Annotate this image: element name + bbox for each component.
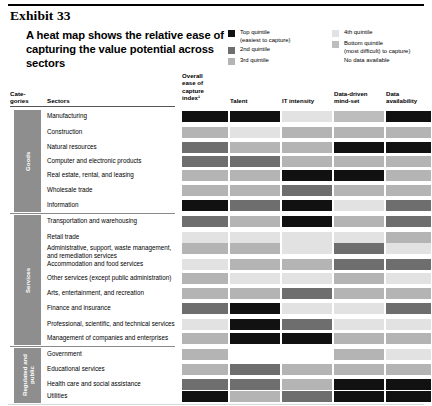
legend-swatch bbox=[228, 30, 235, 37]
heatmap-cell bbox=[282, 111, 332, 122]
sector-label: Computer and electronic products bbox=[47, 157, 179, 165]
column-header-line: Data bbox=[386, 90, 399, 97]
group-bar-label: Regulated and public bbox=[14, 348, 41, 403]
heatmap-cell bbox=[230, 319, 280, 330]
legend-swatch bbox=[332, 30, 339, 37]
heatmap-cell bbox=[282, 288, 332, 299]
heatmap-cell bbox=[282, 200, 332, 211]
heatmap-cell bbox=[182, 259, 228, 270]
heatmap-cell bbox=[182, 156, 228, 167]
heatmap-cell bbox=[282, 349, 332, 360]
heatmap-cell bbox=[182, 185, 228, 196]
heatmap-cell bbox=[386, 127, 431, 138]
heatmap-cell bbox=[282, 232, 332, 243]
heatmap-cell bbox=[182, 379, 228, 390]
heatmap-cell bbox=[282, 142, 332, 153]
heatmap-cell bbox=[282, 364, 332, 375]
heatmap-cell bbox=[334, 349, 384, 360]
sector-label: Real estate, rental, and leasing bbox=[47, 171, 179, 179]
heatmap-cell bbox=[386, 170, 431, 181]
heatmap-cell bbox=[282, 303, 332, 314]
column-header-line: Data-driven bbox=[334, 90, 368, 97]
sector-label: Retail trade bbox=[47, 233, 179, 241]
heatmap-cell bbox=[282, 216, 332, 227]
heatmap-cell bbox=[230, 243, 280, 254]
sector-label: Information bbox=[47, 201, 179, 209]
heatmap-cell bbox=[182, 216, 228, 227]
sector-label: Transportation and warehousing bbox=[47, 217, 179, 225]
heatmap-cell bbox=[230, 349, 280, 360]
heatmap-cell bbox=[386, 232, 431, 243]
sector-label: Wholesale trade bbox=[47, 186, 179, 194]
heatmap-cell bbox=[230, 273, 280, 284]
categories-header-line1: Cate- bbox=[10, 90, 25, 97]
group-bar-label: Goods bbox=[14, 110, 41, 212]
heatmap-cell bbox=[230, 127, 280, 138]
heatmap-cell bbox=[334, 259, 384, 270]
heatmap-cell bbox=[386, 200, 431, 211]
heatmap-cell bbox=[334, 127, 384, 138]
heatmap-cell bbox=[282, 156, 332, 167]
sector-label: Government bbox=[47, 350, 179, 358]
sector-label: Construction bbox=[47, 128, 179, 136]
legend-item: 2nd quintile bbox=[228, 46, 328, 55]
heatmap-cell bbox=[282, 243, 332, 254]
sector-label: Natural resources bbox=[47, 143, 179, 151]
heatmap-cell bbox=[334, 185, 384, 196]
heatmap-cell bbox=[334, 379, 384, 390]
legend-label: 3rd quintile bbox=[240, 57, 328, 65]
column-header-talent: Talent bbox=[230, 97, 286, 104]
heatmap-cell bbox=[282, 185, 332, 196]
heatmap-cell bbox=[230, 216, 280, 227]
heatmap-cell bbox=[334, 364, 384, 375]
column-header-line: Talent bbox=[230, 97, 248, 104]
heatmap-cell bbox=[182, 333, 228, 344]
column-header-data_availability: Dataavailability bbox=[386, 90, 432, 105]
group-bar-label: Services bbox=[14, 215, 41, 345]
heatmap-cell bbox=[282, 319, 332, 330]
legend-swatch bbox=[228, 47, 235, 54]
sector-label: Administrative, support, waste managemen… bbox=[47, 244, 179, 259]
heatmap-cell bbox=[182, 288, 228, 299]
heatmap-cell bbox=[386, 319, 431, 330]
group-bar-goods: Goods bbox=[14, 110, 41, 212]
legend-sublabel: (easiest to capture) bbox=[240, 37, 328, 45]
heatmap-cell bbox=[386, 364, 431, 375]
heatmap-cell bbox=[386, 185, 431, 196]
heatmap-cell bbox=[182, 319, 228, 330]
heatmap-cell bbox=[182, 170, 228, 181]
heatmap-cell bbox=[386, 303, 431, 314]
heatmap-cell bbox=[282, 259, 332, 270]
page-title: A heat map shows the relative ease of ca… bbox=[26, 28, 226, 71]
column-header-line: mind-set bbox=[334, 97, 359, 104]
column-header-line: availability bbox=[386, 97, 417, 104]
heatmap-cell bbox=[334, 156, 384, 167]
heatmap-cell bbox=[334, 303, 384, 314]
sector-label: Manufacturing bbox=[47, 112, 179, 120]
heatmap-cell bbox=[182, 111, 228, 122]
legend-item: Bottom quintile(most difficult) to captu… bbox=[332, 40, 432, 55]
legend-swatch bbox=[332, 58, 339, 65]
heatmap-cell bbox=[386, 379, 431, 390]
heatmap-cell bbox=[386, 391, 431, 402]
heatmap-cell bbox=[334, 216, 384, 227]
sector-label: Health care and social assistance bbox=[47, 380, 179, 388]
heatmap-cell bbox=[334, 200, 384, 211]
heatmap-cell bbox=[386, 288, 431, 299]
column-header-line: index¹ bbox=[182, 94, 200, 101]
legend-label: Top quintile(easiest to capture) bbox=[240, 29, 328, 44]
categories-header-line2: gories bbox=[10, 97, 29, 104]
legend-swatch bbox=[228, 58, 235, 65]
heatmap-cell bbox=[230, 200, 280, 211]
sector-label: Educational services bbox=[47, 365, 179, 373]
heatmap-cell bbox=[230, 170, 280, 181]
heatmap-cell bbox=[230, 259, 280, 270]
column-header-line: IT intensity bbox=[282, 97, 314, 104]
legend-item: 4th quintile bbox=[332, 29, 432, 38]
exhibit-page: Exhibit 33 A heat map shows the relative… bbox=[0, 0, 432, 406]
sectors-header: Sectors bbox=[47, 97, 70, 104]
column-header-line: ease of bbox=[182, 79, 203, 86]
heatmap-cell bbox=[182, 232, 228, 243]
heatmap-cell bbox=[334, 142, 384, 153]
heatmap-cell bbox=[230, 288, 280, 299]
